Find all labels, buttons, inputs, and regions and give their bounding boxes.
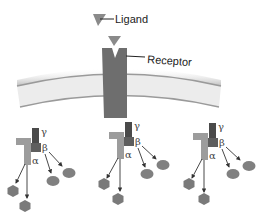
beta-label: β — [219, 137, 225, 148]
receptor-leader-line — [126, 56, 145, 57]
effector-hexagon-icon — [99, 178, 110, 190]
g-protein-complex-1: γ β α — [8, 126, 76, 212]
beta-subunit — [208, 138, 218, 147]
effector-ellipse-icon — [157, 160, 170, 170]
free-ligand: Ligand — [93, 13, 148, 26]
beta-subunit — [31, 143, 41, 152]
receptor-label: Receptor — [147, 53, 193, 68]
alpha-subunit-stem — [117, 139, 124, 159]
gamma-label: γ — [134, 120, 140, 131]
beta-label: β — [42, 142, 48, 153]
gamma-subunit — [125, 122, 132, 137]
arrow-icon — [45, 154, 51, 173]
signal-transduction-diagram: Ligand Receptor γ β α γ β α — [0, 0, 266, 221]
arrow-icon — [142, 146, 156, 159]
effector-hexagon-icon — [199, 193, 210, 205]
effector-ellipse-icon — [141, 169, 154, 179]
alpha-label: α — [32, 155, 39, 166]
gamma-subunit — [209, 123, 216, 138]
arrow-icon — [16, 164, 25, 183]
effector-ellipse-icon — [63, 168, 76, 178]
gamma-label: γ — [41, 126, 47, 137]
g-protein-complex-2: γ β α — [99, 120, 170, 205]
effector-hexagon-icon — [113, 193, 124, 205]
alpha-label: α — [125, 149, 132, 160]
alpha-subunit-stem — [201, 140, 208, 160]
receptor-body — [102, 48, 127, 118]
arrow-icon — [49, 152, 62, 166]
gamma-label: γ — [218, 121, 224, 132]
alpha-subunit-bar — [193, 133, 208, 140]
bound-ligand-triangle-icon — [108, 36, 121, 46]
alpha-subunit-bar — [16, 138, 31, 145]
arrow-icon — [222, 149, 229, 167]
effector-hexagon-icon — [20, 200, 31, 212]
alpha-subunit-stem — [24, 145, 31, 165]
effector-ellipse-icon — [243, 161, 256, 171]
effector-hexagon-icon — [184, 178, 195, 190]
arrow-icon — [192, 159, 202, 178]
effector-ellipse-icon — [47, 176, 60, 186]
effector-hexagon-icon — [8, 185, 19, 197]
arrow-icon — [226, 147, 240, 160]
effector-ellipse-icon — [227, 169, 240, 179]
ligand-label: Ligand — [115, 13, 148, 25]
g-protein-complex-3: γ β α — [184, 121, 256, 205]
ligand-triangle-icon — [93, 14, 106, 26]
arrow-icon — [107, 158, 118, 178]
alpha-subunit-bar — [109, 132, 124, 139]
beta-subunit — [124, 137, 134, 146]
arrow-icon — [138, 148, 145, 167]
gamma-subunit — [32, 128, 39, 143]
beta-label: β — [135, 136, 141, 147]
alpha-label: α — [209, 150, 216, 161]
